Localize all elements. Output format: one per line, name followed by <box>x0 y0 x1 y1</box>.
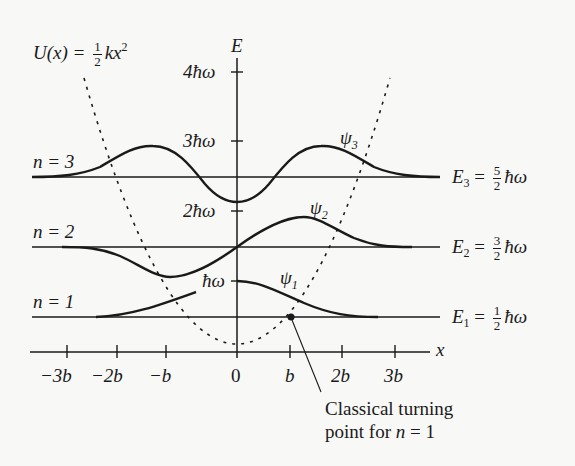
x-tick-3b: 3b <box>384 366 403 385</box>
x-tick-m2b: −2b <box>91 366 123 385</box>
y-tick-4: 4ħω <box>183 62 215 81</box>
potential-fraction: 12 <box>93 40 102 68</box>
level-label-n3: n = 3 <box>33 152 74 171</box>
diagram-graphics <box>0 0 575 466</box>
x-tick-zero: 0 <box>231 366 241 385</box>
potential-label: U(x) = 12kx2 <box>33 40 128 68</box>
turning-point-annotation: Classical turning point for n = 1 <box>325 397 453 443</box>
wavefunction-psi3 <box>32 146 440 202</box>
x-tick-b: b <box>285 366 295 385</box>
energy-label-e1: E1 = 12ħω <box>452 304 527 332</box>
x-axis-label: x <box>436 340 444 359</box>
oscillator-diagram: U(x) = 12kx2 E x 4ħω 3ħω 2ħω ħω −3b −2b … <box>0 0 575 466</box>
e-axis-label: E <box>231 36 243 55</box>
turning-point-pointer <box>292 320 321 392</box>
y-tick-3: 3ħω <box>183 131 215 150</box>
x-tick-m3b: −3b <box>40 366 72 385</box>
x-tick-2b: 2b <box>331 366 350 385</box>
y-tick-1: ħω <box>202 271 225 290</box>
level-label-n1: n = 1 <box>33 292 74 311</box>
energy-label-e2: E2 = 32ħω <box>452 234 527 262</box>
potential-lhs: U(x) = <box>33 42 90 63</box>
energy-label-e3: E3 = 52ħω <box>452 164 527 192</box>
x-tick-mb: −b <box>149 366 171 385</box>
level-label-n2: n = 2 <box>33 222 74 241</box>
psi2-label: ψ2 <box>310 198 328 221</box>
psi3-label: ψ3 <box>340 128 358 151</box>
y-tick-2: 2ħω <box>183 201 215 220</box>
turning-point-dot <box>288 314 295 321</box>
psi1-label: ψ1 <box>280 268 298 291</box>
